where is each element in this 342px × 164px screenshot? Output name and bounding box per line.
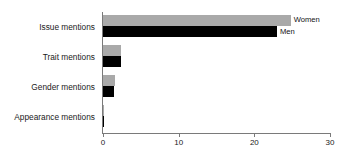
x-tick-mark-20	[254, 133, 255, 137]
x-tick-mark-0	[103, 133, 104, 137]
x-axis-ticks: 0 10 20 30	[103, 133, 330, 155]
plot-area: Women Men 0 10	[103, 12, 330, 133]
bar-appearance-mentions-men	[103, 116, 104, 127]
bar-gender-mentions-men	[103, 86, 114, 97]
x-tick-label-20: 20	[250, 138, 259, 147]
x-tick-mark-30	[330, 133, 331, 137]
category-label-gender-mentions: Gender mentions	[0, 83, 95, 92]
series-label-women: Women	[294, 16, 320, 24]
bar-appearance-mentions-women	[103, 105, 104, 116]
x-tick-label-30: 30	[326, 138, 335, 147]
x-tick-label-0: 0	[101, 138, 105, 147]
x-tick-mark-10	[179, 133, 180, 137]
bar-chart: Issue mentions Trait mentions Gender men…	[0, 0, 342, 164]
bar-issue-mentions-women	[103, 15, 291, 26]
category-label-appearance-mentions: Appearance mentions	[0, 113, 95, 122]
bar-gender-mentions-women	[103, 75, 115, 86]
bar-trait-mentions-men	[103, 56, 121, 67]
category-label-trait-mentions: Trait mentions	[0, 53, 95, 62]
category-axis-labels: Issue mentions Trait mentions Gender men…	[0, 12, 99, 133]
series-label-men: Men	[280, 28, 295, 36]
bar-issue-mentions-men	[103, 26, 277, 37]
category-label-issue-mentions: Issue mentions	[0, 23, 95, 32]
bar-trait-mentions-women	[103, 45, 121, 56]
x-tick-label-10: 10	[174, 138, 183, 147]
